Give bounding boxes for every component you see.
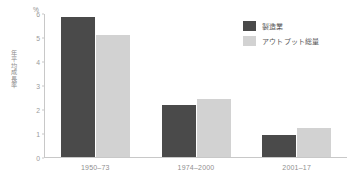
- legend-swatch-icon: [243, 36, 256, 46]
- x-axis-category-label: 1974–2000: [146, 164, 247, 171]
- legend-label: 製造業: [262, 21, 284, 31]
- x-axis-category-label: 1950–73: [45, 164, 146, 171]
- y-axis-tick-mark: [42, 14, 45, 15]
- y-axis-tick-mark: [42, 158, 45, 159]
- legend-item[interactable]: アウトプット総量: [243, 36, 320, 46]
- y-axis-tick-label: 1: [36, 131, 40, 138]
- bar-group: [45, 14, 146, 157]
- x-axis-category-labels: 1950–731974–20002001–17: [45, 164, 347, 171]
- y-axis-title: 年平均成長率: [2, 50, 16, 88]
- y-axis-tick-mark: [42, 62, 45, 63]
- x-axis-category-label: 2001–17: [246, 164, 347, 171]
- y-axis-tick-mark: [42, 134, 45, 135]
- y-axis-tick-mark: [42, 86, 45, 87]
- bar-chart: % 年平均成長率 0123456 1950–731974–20002001–17…: [0, 0, 357, 189]
- y-axis-tick-label: 2: [36, 107, 40, 114]
- y-axis-tick-label: 5: [36, 35, 40, 42]
- legend-swatch-icon: [243, 21, 256, 31]
- bar: [96, 35, 130, 157]
- bar: [297, 128, 331, 157]
- y-axis-tick-mark: [42, 38, 45, 39]
- bar: [262, 135, 296, 157]
- y-axis-tick-mark: [42, 110, 45, 111]
- legend-item[interactable]: 製造業: [243, 21, 320, 31]
- legend-label: アウトプット総量: [262, 36, 320, 46]
- x-axis-line: [44, 157, 347, 158]
- y-axis-tick-label: 3: [36, 83, 40, 90]
- y-axis-tick-label: 4: [36, 59, 40, 66]
- legend: 製造業アウトプット総量: [243, 21, 320, 51]
- bar: [61, 17, 95, 157]
- bar: [162, 105, 196, 157]
- bar-group: [146, 14, 247, 157]
- y-axis-tick-label: 0: [36, 155, 40, 162]
- bar: [197, 99, 231, 157]
- y-axis-tick-label: 6: [36, 11, 40, 18]
